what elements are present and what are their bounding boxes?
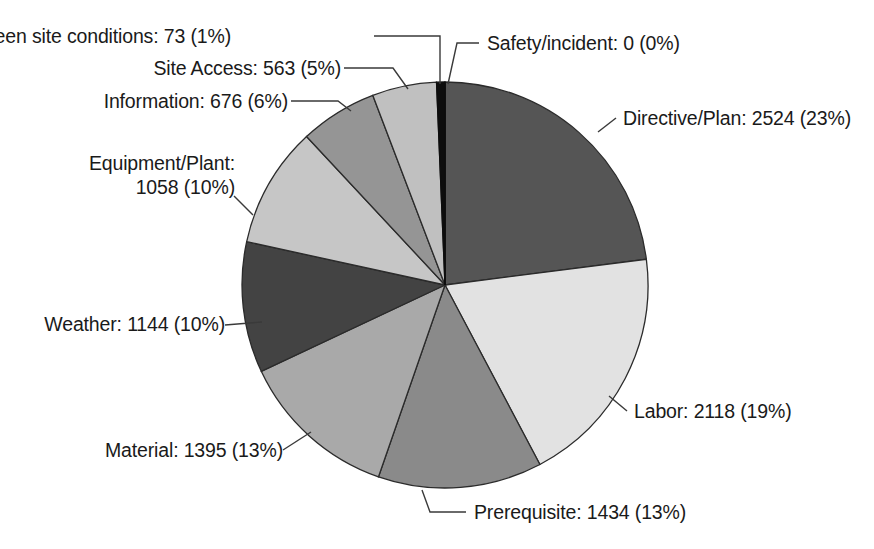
- pie-chart-figure: Unforseen site conditions: 73 (1%) Site …: [0, 0, 874, 549]
- pie-label-unforseen-site-conditions: Unforseen site conditions: 73 (1%): [0, 25, 231, 49]
- pie-label-equipment-plant-line2: 1058 (10%): [35, 176, 235, 200]
- pie-label-material: Material: 1395 (13%): [105, 439, 283, 463]
- leader-line-site-access: [344, 68, 408, 89]
- pie-label-equipment-plant-line1: Equipment/Plant:: [35, 152, 235, 176]
- pie-label-weather: Weather: 1144 (10%): [44, 313, 225, 337]
- leader-line-equipment-plant: [234, 196, 253, 215]
- pie-slice-directive-plan: [445, 82, 646, 285]
- pie-label-equipment-plant: Equipment/Plant: 1058 (10%): [35, 152, 235, 200]
- pie-label-site-access: Site Access: 563 (5%): [153, 57, 341, 81]
- pie-slices: [242, 82, 648, 488]
- leader-line-material: [283, 432, 311, 450]
- pie-label-labor: Labor: 2118 (19%): [634, 400, 792, 424]
- leader-line-directive-plan: [598, 118, 616, 132]
- pie-label-safety-incident: Safety/incident: 0 (0%): [487, 32, 680, 56]
- leader-line-safety-incident: [448, 43, 479, 84]
- pie-label-prerequisite: Prerequisite: 1434 (13%): [474, 501, 686, 525]
- leader-line-unforseen-site-conditions: [374, 36, 440, 84]
- pie-label-information: Information: 676 (6%): [104, 90, 288, 114]
- pie-chart-svg: [0, 0, 874, 549]
- leader-line-prerequisite: [422, 490, 466, 512]
- pie-label-directive-plan: Directive/Plan: 2524 (23%): [623, 107, 851, 131]
- leader-line-labor: [609, 396, 627, 411]
